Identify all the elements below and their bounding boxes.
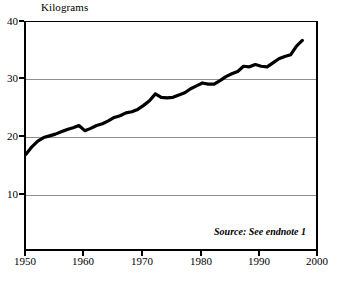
y-tick-mark-20 xyxy=(19,135,24,137)
plot-area xyxy=(24,21,318,251)
y-tick-label-40: 40 xyxy=(0,15,18,27)
y-tick-label-20: 20 xyxy=(0,130,18,142)
x-tick-label-1960: 1960 xyxy=(63,255,103,267)
y-axis-title: Kilograms xyxy=(41,1,88,13)
y-tick-label-10: 10 xyxy=(0,188,18,200)
series-line xyxy=(26,40,302,154)
y-tick-mark-30 xyxy=(19,77,24,79)
x-tick-label-1970: 1970 xyxy=(122,255,162,267)
x-tick-label-1990: 1990 xyxy=(239,255,279,267)
source-annotation: Source: See endnote 1 xyxy=(214,226,306,237)
y-tick-label-30: 30 xyxy=(0,72,18,84)
y-tick-mark-10 xyxy=(19,193,24,195)
data-line-group xyxy=(26,22,320,252)
x-tick-label-1980: 1980 xyxy=(181,255,221,267)
y-tick-mark-40 xyxy=(19,20,24,22)
x-tick-label-2000: 2000 xyxy=(297,255,337,267)
x-tick-label-1950: 1950 xyxy=(5,255,45,267)
chart-container: Kilograms 40 30 20 10 1950 1960 1970 198… xyxy=(0,0,338,282)
